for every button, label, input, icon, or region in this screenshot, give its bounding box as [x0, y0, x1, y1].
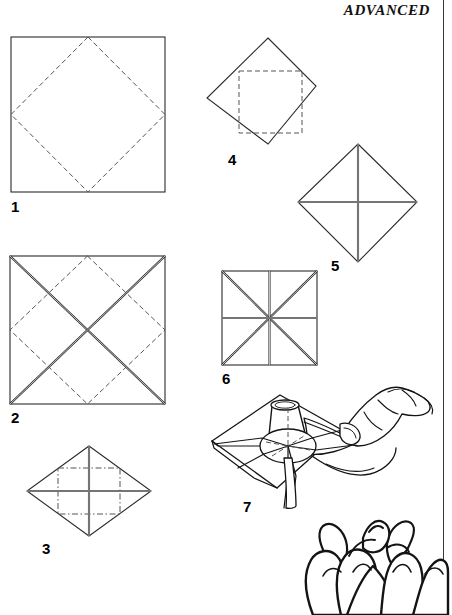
step-7-number: 7 [243, 499, 251, 514]
step-2-number: 2 [11, 410, 19, 425]
lotus-flower-illustration [283, 516, 448, 615]
step-4-figure [198, 32, 323, 152]
step-1-figure [4, 30, 176, 202]
step-7-figure [192, 378, 442, 513]
step-3-figure [20, 441, 160, 541]
origami-instruction-page: ADVANCED 1 2 [0, 0, 452, 615]
step-3-number: 3 [42, 541, 50, 556]
step-1-number: 1 [11, 199, 19, 214]
page-header-title: ADVANCED [344, 2, 430, 19]
step-5-number: 5 [331, 258, 339, 273]
step-2-figure [3, 249, 177, 413]
step-4-number: 4 [228, 152, 236, 167]
step-5-figure [292, 138, 422, 263]
step-6-figure [216, 265, 326, 373]
